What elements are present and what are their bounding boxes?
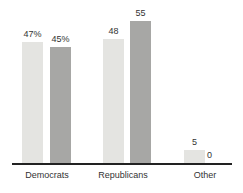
- bar-republicans-series-2-dark: [130, 21, 151, 163]
- bar-chart: 47%45%Democrats4855Republicans50Other: [0, 0, 243, 193]
- x-axis-line: [12, 163, 232, 165]
- category-label-republicans: Republicans: [78, 170, 168, 181]
- bar-democrats-series-1-light: [22, 42, 43, 163]
- bar-democrats-series-2-dark: [50, 47, 71, 163]
- bar-value-label-other-series-2-dark: 0: [191, 149, 228, 161]
- category-label-other: Other: [160, 170, 243, 181]
- bar-value-label-democrats-series-2-dark: 45%: [42, 33, 79, 45]
- bar-value-label-other-series-1-light: 5: [176, 136, 213, 148]
- bar-republicans-series-1-light: [103, 39, 124, 163]
- bar-value-label-republicans-series-1-light: 48: [95, 25, 132, 37]
- bar-value-label-republicans-series-2-dark: 55: [122, 7, 159, 19]
